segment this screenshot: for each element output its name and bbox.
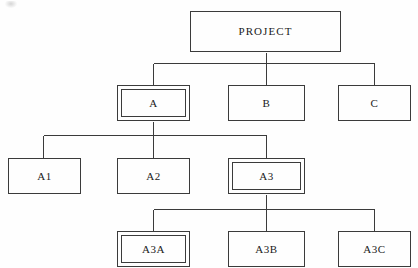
node-a3a-label: A3A [142, 244, 165, 255]
node-a2[interactable]: A2 [117, 158, 190, 194]
node-a3c[interactable]: A3C [338, 231, 411, 267]
node-a1-label: A1 [37, 171, 52, 182]
node-a3-inner-frame: A3 [232, 162, 301, 190]
node-b[interactable]: B [228, 85, 305, 121]
node-a3[interactable]: A3 [228, 158, 305, 194]
node-a3b-label: A3B [255, 244, 278, 255]
node-a3-label: A3 [259, 171, 274, 182]
node-a-label: A [149, 98, 158, 109]
node-a3a-inner-frame: A3A [121, 235, 186, 263]
node-project[interactable]: PROJECT [190, 11, 341, 52]
node-a1[interactable]: A1 [8, 158, 81, 194]
node-b-label: B [263, 98, 271, 109]
node-a-inner-frame: A [121, 89, 186, 117]
node-a3c-label: A3C [363, 244, 386, 255]
node-a2-label: A2 [146, 171, 161, 182]
node-a[interactable]: A [117, 85, 190, 121]
scan-artifact [5, 1, 17, 8]
node-c[interactable]: C [338, 85, 411, 121]
node-a3a[interactable]: A3A [117, 231, 190, 267]
node-c-label: C [371, 98, 379, 109]
wbs-diagram-canvas: PROJECT A B C A1 A2 A3 A3A A3B A3C [0, 0, 418, 268]
node-a3b[interactable]: A3B [228, 231, 305, 267]
node-project-label: PROJECT [238, 26, 292, 37]
